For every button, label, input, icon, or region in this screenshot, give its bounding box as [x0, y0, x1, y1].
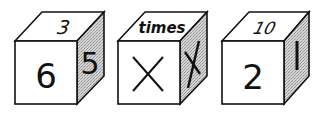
cubes-canvas: 3 6 5 times 10 2 1: [0, 0, 322, 115]
cube-1-front-label: 6: [35, 56, 57, 96]
dice-diagram: 3 6 5 times 10 2 1: [0, 0, 322, 115]
cube-3-front-label: 2: [242, 57, 264, 97]
cube-1: 3 6 5: [15, 12, 104, 104]
cube-1-side-label: 5: [80, 46, 99, 81]
cube-2-top-label: times: [138, 19, 185, 37]
cube-2: times: [118, 12, 207, 104]
